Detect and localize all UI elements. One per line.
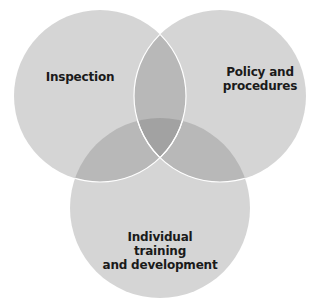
label-inspection: Inspection	[40, 70, 120, 84]
label-inspection-text: Inspection	[46, 70, 115, 84]
label-policy-line1: Policy and	[215, 65, 305, 79]
label-training-line1: Individual training	[100, 230, 220, 258]
label-training: Individual training and development	[100, 230, 220, 272]
label-training-line2: and development	[100, 258, 220, 272]
label-policy: Policy and procedures	[215, 65, 305, 93]
label-policy-line2: procedures	[215, 79, 305, 93]
